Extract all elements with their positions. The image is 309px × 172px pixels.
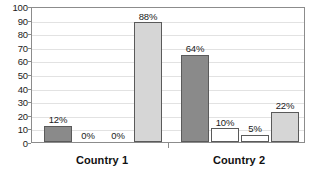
gridline bbox=[32, 76, 304, 77]
bar-chart: 100 90 80 70 60 50 40 30 20 10 0 bbox=[0, 0, 309, 172]
bar-label-country1-series1: 12% bbox=[38, 115, 78, 125]
gridline bbox=[32, 35, 304, 36]
y-tick-label: 20 bbox=[0, 112, 28, 121]
bar-label-country2-series4: 22% bbox=[265, 101, 305, 111]
y-tick-label: 80 bbox=[0, 30, 28, 39]
bar-label-country1-series3: 0% bbox=[98, 131, 138, 141]
bar-label-country1-series4: 88% bbox=[128, 12, 168, 22]
category-label-country-2: Country 2 bbox=[179, 154, 299, 166]
gridline bbox=[32, 49, 304, 50]
bar-label-country2-series1: 64% bbox=[175, 44, 215, 54]
y-tick-label: 70 bbox=[0, 44, 28, 53]
y-tick-label: 0 bbox=[0, 139, 28, 148]
y-tick-label: 50 bbox=[0, 71, 28, 80]
x-axis: Country 1 Country 2 bbox=[31, 143, 305, 172]
y-tick-label: 60 bbox=[0, 57, 28, 66]
bar-country1-series4 bbox=[134, 22, 162, 142]
gridline bbox=[32, 62, 304, 63]
plot-area: 12% 0% 0% 88% 64% 10% 5% 22% bbox=[31, 7, 305, 143]
y-tick-label: 90 bbox=[0, 17, 28, 26]
bar-label-country2-series3: 5% bbox=[235, 124, 275, 134]
bar-country2-series1 bbox=[181, 55, 209, 142]
bar-country2-series3 bbox=[241, 135, 269, 142]
y-tick-label: 40 bbox=[0, 85, 28, 94]
y-tick-label: 100 bbox=[0, 3, 28, 12]
gridline bbox=[32, 22, 304, 23]
y-axis: 100 90 80 70 60 50 40 30 20 10 0 bbox=[0, 0, 28, 150]
category-label-country-1: Country 1 bbox=[42, 154, 162, 166]
category-separator-tick bbox=[168, 143, 169, 148]
y-tick-label: 10 bbox=[0, 125, 28, 134]
gridline bbox=[32, 90, 304, 91]
y-tick-label: 30 bbox=[0, 98, 28, 107]
bar-country2-series4 bbox=[271, 112, 299, 142]
gridline bbox=[32, 103, 304, 104]
